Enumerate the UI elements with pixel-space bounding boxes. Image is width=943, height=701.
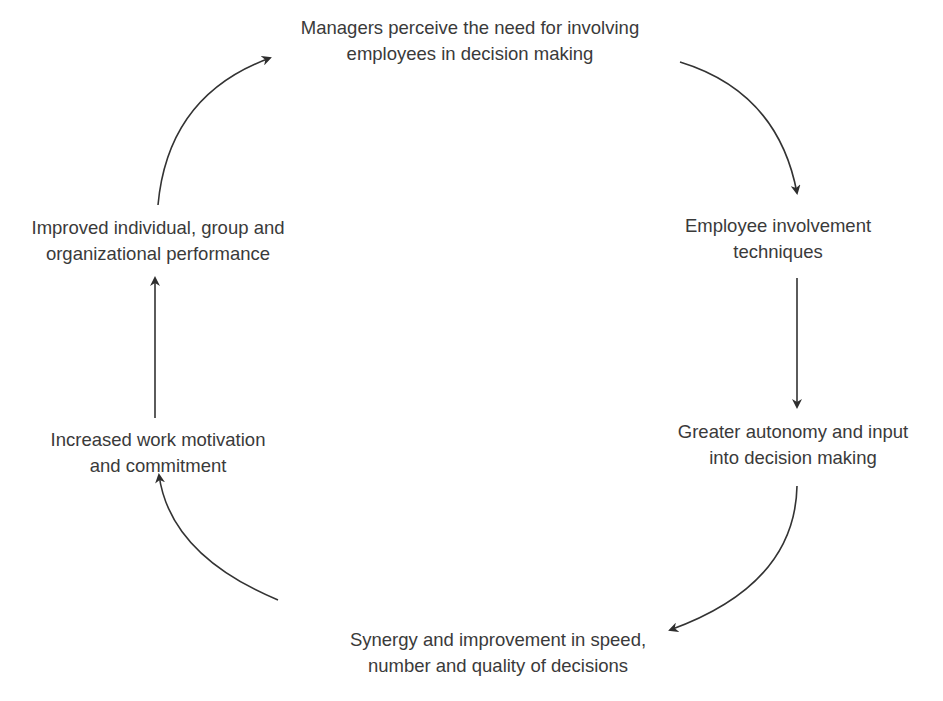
arrow-synergy-to-motivation <box>159 475 278 600</box>
node-autonomy: Greater autonomy and input into decision… <box>678 419 908 471</box>
node-managers-line-2: employees in decision making <box>301 41 639 67</box>
node-techniques-line-1: Employee involvement <box>685 213 871 239</box>
cycle-arrows <box>0 0 943 701</box>
node-performance-line-2: organizational performance <box>32 241 285 267</box>
node-autonomy-line-2: into decision making <box>678 445 908 471</box>
node-synergy: Synergy and improvement in speed, number… <box>350 627 646 679</box>
node-autonomy-line-1: Greater autonomy and input <box>678 419 908 445</box>
node-synergy-line-2: number and quality of decisions <box>350 653 646 679</box>
node-techniques: Employee involvement techniques <box>685 213 871 265</box>
node-performance-line-1: Improved individual, group and <box>32 215 285 241</box>
node-techniques-line-2: techniques <box>685 239 871 265</box>
node-managers: Managers perceive the need for involving… <box>301 15 639 67</box>
node-motivation: Increased work motivation and commitment <box>51 427 266 479</box>
arrow-performance-to-managers <box>158 58 270 205</box>
node-motivation-line-1: Increased work motivation <box>51 427 266 453</box>
arrow-autonomy-to-synergy <box>670 486 797 630</box>
node-motivation-line-2: and commitment <box>51 453 266 479</box>
arrow-managers-to-techniques <box>680 62 797 193</box>
node-performance: Improved individual, group and organizat… <box>32 215 285 267</box>
node-managers-line-1: Managers perceive the need for involving <box>301 15 639 41</box>
node-synergy-line-1: Synergy and improvement in speed, <box>350 627 646 653</box>
